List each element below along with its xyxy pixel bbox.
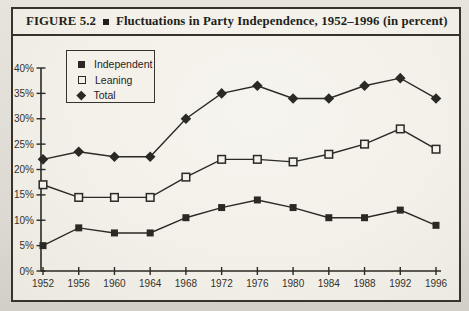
open-square-marker-icon	[75, 194, 83, 202]
filled-square-marker-icon	[433, 222, 440, 229]
filled-square-marker-icon	[361, 214, 368, 221]
figure-title-bar: FIGURE 5.2 Fluctuations in Party Indepen…	[13, 9, 459, 36]
filled-square-marker-icon	[111, 229, 118, 236]
open-square-marker-icon	[218, 156, 226, 164]
open-square-marker-icon	[396, 125, 404, 133]
open-square-marker-icon	[146, 194, 154, 202]
filled-square-marker-icon	[254, 196, 261, 203]
x-tick-label: 1988	[353, 278, 376, 289]
y-tick-label: 15%	[14, 189, 34, 200]
x-tick-label: 1980	[282, 278, 305, 289]
filled-diamond-marker-icon	[216, 88, 227, 99]
open-square-marker-icon	[111, 194, 119, 202]
y-tick-label: 10%	[14, 215, 34, 226]
legend-label: Total	[94, 90, 116, 101]
series-independent	[40, 196, 440, 249]
y-tick-label: 0%	[20, 266, 35, 277]
filled-square-icon	[78, 61, 85, 68]
legend-item-total: Total	[78, 89, 154, 102]
scanned-page: { "figure": { "label": "FIGURE 5.2", "bu…	[0, 0, 469, 311]
x-tick-label: 1952	[32, 278, 55, 289]
x-axis: 1952195619601964196819721976198019841988…	[32, 267, 448, 289]
y-tick-label: 30%	[14, 113, 34, 124]
series-leaning	[39, 125, 440, 201]
open-square-marker-icon	[325, 150, 333, 158]
y-tick-label: 5%	[20, 240, 35, 251]
open-square-marker-icon	[254, 156, 262, 164]
open-square-marker-icon	[361, 140, 369, 148]
filled-diamond-marker-icon	[38, 154, 49, 165]
x-tick-label: 1960	[103, 278, 126, 289]
series-line	[43, 200, 436, 246]
filled-diamond-marker-icon	[324, 93, 335, 104]
filled-square-marker-icon	[75, 224, 82, 231]
legend-item-leaning: Leaning	[78, 74, 154, 87]
legend-label: Independent	[94, 59, 152, 70]
filled-square-marker-icon	[290, 204, 297, 211]
filled-square-marker-icon	[218, 204, 225, 211]
y-tick-label: 40%	[14, 63, 34, 74]
filled-diamond-marker-icon	[109, 152, 120, 163]
chart-legend: IndependentLeaningTotal	[66, 50, 155, 103]
filled-diamond-marker-icon	[73, 146, 84, 157]
x-tick-label: 1968	[175, 278, 198, 289]
open-square-marker-icon	[432, 145, 440, 153]
figure-title: Fluctuations in Party Independence, 1952…	[116, 14, 448, 29]
filled-square-marker-icon	[182, 214, 189, 221]
square-bullet-icon	[103, 19, 109, 25]
open-square-marker-icon	[289, 158, 297, 166]
y-tick-label: 20%	[14, 164, 34, 175]
x-tick-label: 1992	[389, 278, 412, 289]
legend-label: Leaning	[95, 75, 132, 86]
figure-box: FIGURE 5.2 Fluctuations in Party Indepen…	[11, 7, 461, 302]
filled-diamond-marker-icon	[431, 93, 442, 104]
filled-square-marker-icon	[147, 229, 154, 236]
open-square-icon	[78, 76, 86, 84]
filled-square-marker-icon	[325, 214, 332, 221]
figure-label: FIGURE 5.2	[26, 14, 96, 29]
x-tick-label: 1972	[211, 278, 234, 289]
x-tick-label: 1964	[139, 278, 162, 289]
open-square-marker-icon	[39, 181, 47, 189]
legend-item-independent: Independent	[78, 58, 154, 71]
x-tick-label: 1984	[318, 278, 341, 289]
x-tick-label: 1956	[68, 278, 91, 289]
filled-square-marker-icon	[397, 207, 404, 214]
filled-diamond-icon	[77, 91, 86, 100]
y-tick-label: 35%	[14, 88, 34, 99]
x-tick-label: 1996	[425, 278, 448, 289]
filled-diamond-marker-icon	[395, 73, 406, 84]
filled-diamond-marker-icon	[359, 80, 370, 91]
x-tick-label: 1976	[246, 278, 269, 289]
filled-diamond-marker-icon	[252, 80, 263, 91]
open-square-marker-icon	[182, 173, 190, 181]
y-tick-label: 25%	[14, 139, 34, 150]
filled-diamond-marker-icon	[288, 93, 299, 104]
filled-square-marker-icon	[40, 242, 47, 249]
series-line	[43, 129, 436, 198]
